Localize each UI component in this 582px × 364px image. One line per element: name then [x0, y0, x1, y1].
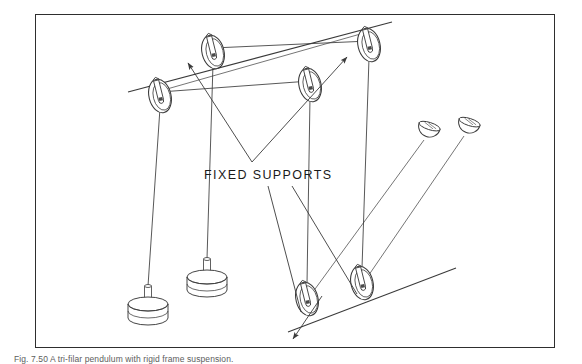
figure-caption: Fig. 7.50 A tri-filar pendulum with rigi… [14, 354, 554, 364]
fixed-supports-label: FIXED SUPPORTS [204, 168, 332, 182]
figure-root: FIXED SUPPORTS [0, 0, 582, 364]
